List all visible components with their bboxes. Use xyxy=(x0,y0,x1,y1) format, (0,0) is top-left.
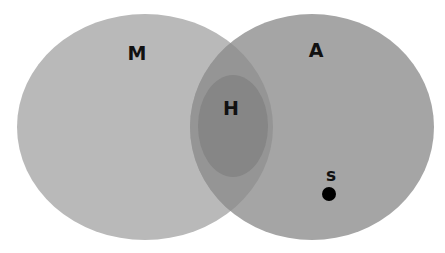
venn-diagram: M A H s xyxy=(0,0,445,253)
point-s-dot xyxy=(322,187,336,201)
point-s-label: s xyxy=(326,165,336,185)
set-m-label: M xyxy=(128,42,147,64)
venn-canvas: M A H s xyxy=(0,0,445,253)
set-h-label: H xyxy=(223,97,239,119)
set-a-label: A xyxy=(309,39,324,61)
set-h-ellipse xyxy=(198,75,268,177)
